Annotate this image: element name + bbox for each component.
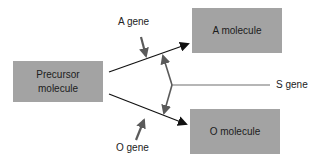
arrow-precursor-to-o: [109, 94, 186, 124]
s-gene-label: S gene: [276, 79, 308, 90]
s-gene-arrow-up-icon: [163, 56, 172, 85]
precursor-molecule-box: Precursor molecule: [13, 61, 103, 102]
o-molecule-box: O molecule: [190, 109, 280, 154]
o-molecule-label: O molecule: [210, 125, 261, 139]
a-molecule-label: A molecule: [213, 24, 262, 38]
a-gene-label: A gene: [118, 16, 149, 27]
a-molecule-box: A molecule: [192, 8, 282, 53]
o-gene-arrow-icon: [136, 120, 144, 140]
o-gene-label: O gene: [116, 142, 149, 153]
precursor-label-line2: molecule: [38, 82, 78, 96]
s-gene-arrow-down-icon: [164, 85, 172, 113]
a-gene-arrow-icon: [141, 37, 146, 56]
precursor-label-line1: Precursor: [36, 68, 79, 82]
arrow-precursor-to-a: [109, 44, 188, 72]
